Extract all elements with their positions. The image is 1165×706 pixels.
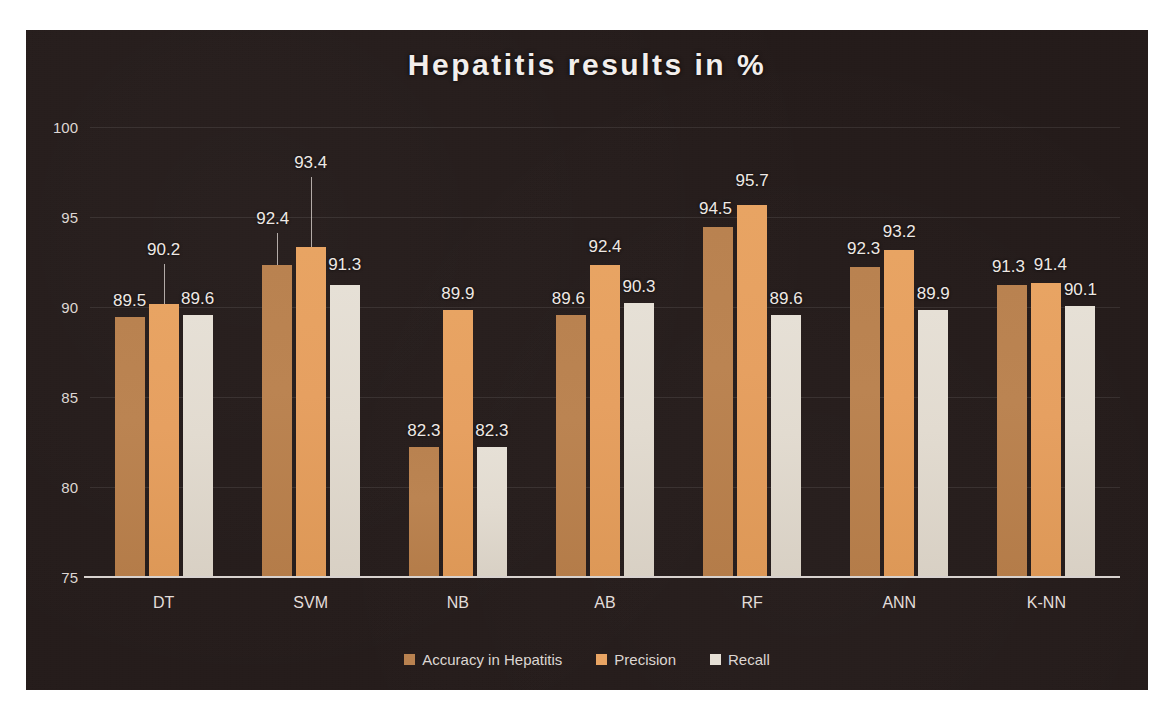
legend-label: Recall [728, 651, 770, 668]
bar[interactable]: 91.4 [1031, 283, 1061, 578]
legend-item[interactable]: Precision [596, 651, 676, 668]
plot-area: 7580859095100 89.590.289.6DT92.493.491.3… [90, 128, 1120, 578]
bar-group: 92.393.289.9ANN [850, 128, 948, 578]
bar-value-label: 91.3 [992, 257, 1025, 277]
legend-item[interactable]: Accuracy in Hepatitis [404, 651, 562, 668]
bar-group: 89.590.289.6DT [115, 128, 213, 578]
bar[interactable]: 93.4 [296, 247, 326, 578]
y-axis-tick-label: 100 [53, 119, 78, 136]
bar[interactable]: 82.3 [409, 447, 439, 578]
bar-group: 91.391.490.1K-NN [997, 128, 1095, 578]
bar-value-label: 91.3 [328, 255, 361, 275]
chart-screenshot: Hepatitis results in % 7580859095100 89.… [0, 0, 1165, 706]
legend-swatch [596, 654, 607, 665]
bar-group-bars: 92.393.289.9 [850, 128, 948, 578]
chart-title: Hepatitis results in % [26, 48, 1148, 82]
x-axis-category-label: DT [153, 594, 174, 612]
bar-value-label: 92.4 [588, 237, 621, 257]
bar-group-bars: 82.389.982.3 [409, 128, 507, 578]
bar-group-bars: 94.595.789.6 [703, 128, 801, 578]
bar-value-label: 93.2 [883, 222, 916, 242]
x-axis-line [84, 576, 1120, 578]
bar[interactable]: 89.6 [556, 315, 586, 578]
bar-group-bars: 89.590.289.6 [115, 128, 213, 578]
bar-group: 82.389.982.3NB [409, 128, 507, 578]
chart-panel: Hepatitis results in % 7580859095100 89.… [26, 30, 1148, 690]
bar-value-label: 82.3 [407, 421, 440, 441]
bar-value-label: 89.5 [113, 291, 146, 311]
bar[interactable]: 92.3 [850, 267, 880, 578]
bar-value-label: 90.3 [622, 277, 655, 297]
bar[interactable]: 91.3 [997, 285, 1027, 578]
x-axis-category-label: K-NN [1027, 594, 1066, 612]
x-axis-category-label: AB [594, 594, 615, 612]
bar-group-bars: 91.391.490.1 [997, 128, 1095, 578]
bar-value-label: 94.5 [699, 199, 732, 219]
bar-value-label: 89.9 [441, 284, 474, 304]
bar[interactable]: 89.6 [771, 315, 801, 578]
bar-value-label: 89.6 [552, 289, 585, 309]
bar[interactable]: 94.5 [703, 227, 733, 578]
x-axis-category-label: RF [741, 594, 762, 612]
bar[interactable]: 92.4 [262, 265, 292, 578]
y-axis-tick-label: 80 [61, 479, 78, 496]
bar[interactable]: 92.4 [590, 265, 620, 578]
bar-value-label: 93.4 [294, 153, 327, 173]
x-axis-category-label: SVM [293, 594, 328, 612]
legend-item[interactable]: Recall [710, 651, 770, 668]
y-axis-tick-label: 90 [61, 299, 78, 316]
bar-value-label: 82.3 [475, 421, 508, 441]
x-axis-category-label: NB [447, 594, 469, 612]
bar[interactable]: 90.2 [149, 304, 179, 578]
y-axis-tick-label: 75 [61, 569, 78, 586]
bar-value-label: 91.4 [1034, 255, 1067, 275]
label-leader-line [277, 233, 278, 265]
legend-swatch [710, 654, 721, 665]
legend-label: Accuracy in Hepatitis [422, 651, 562, 668]
bar-value-label: 89.9 [917, 284, 950, 304]
bar[interactable]: 89.9 [443, 310, 473, 578]
bar-value-label: 89.6 [770, 289, 803, 309]
bar-group: 94.595.789.6RF [703, 128, 801, 578]
bar[interactable]: 95.7 [737, 205, 767, 578]
bar-value-label: 92.3 [847, 239, 880, 259]
bar[interactable]: 91.3 [330, 285, 360, 578]
bar[interactable]: 89.9 [918, 310, 948, 578]
y-axis-tick-label: 85 [61, 389, 78, 406]
bar-value-label: 90.1 [1064, 280, 1097, 300]
bar-value-label: 95.7 [736, 171, 769, 191]
bar-group: 89.692.490.3AB [556, 128, 654, 578]
bar[interactable]: 93.2 [884, 250, 914, 578]
bar-value-label: 89.6 [181, 289, 214, 309]
bar-value-label: 92.4 [256, 209, 289, 229]
legend-swatch [404, 654, 415, 665]
bar[interactable]: 89.6 [183, 315, 213, 578]
y-axis-tick-label: 95 [61, 209, 78, 226]
bar-group-bars: 89.692.490.3 [556, 128, 654, 578]
x-axis-category-label: ANN [882, 594, 916, 612]
bar[interactable]: 89.5 [115, 317, 145, 578]
bar[interactable]: 82.3 [477, 447, 507, 578]
bar-group-bars: 92.493.491.3 [262, 128, 360, 578]
bar-group: 92.493.491.3SVM [262, 128, 360, 578]
label-leader-line [164, 264, 165, 304]
bar[interactable]: 90.1 [1065, 306, 1095, 578]
bar-value-label: 90.2 [147, 240, 180, 260]
legend-label: Precision [614, 651, 676, 668]
label-leader-line [311, 177, 312, 247]
chart-legend: Accuracy in HepatitisPrecisionRecall [26, 651, 1148, 668]
bar[interactable]: 90.3 [624, 303, 654, 578]
